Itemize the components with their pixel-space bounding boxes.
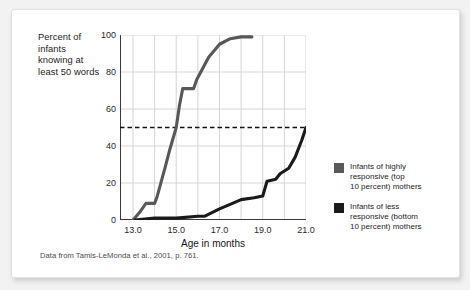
legend-item-less-responsive: Infants of less responsive (bottom 10 pe… bbox=[334, 202, 454, 233]
series-line-less-responsive bbox=[135, 128, 306, 221]
source-caption: Data from Tamis-LeMonda et al., 2001, p.… bbox=[40, 251, 199, 260]
legend-swatch-highly-responsive bbox=[334, 163, 344, 173]
y-tick-label: 40 bbox=[106, 141, 116, 151]
y-tick-label: 80 bbox=[106, 67, 116, 77]
legend: Infants of highly responsive (top 10 per… bbox=[334, 162, 454, 241]
plot-svg bbox=[120, 35, 306, 220]
legend-label-line-3: 10 percent) mothers bbox=[350, 182, 422, 192]
legend-label-line-2: responsive (bottom bbox=[350, 212, 422, 222]
x-axis-title: Age in months bbox=[181, 238, 245, 249]
figure-card: Percent of infants knowing at least 50 w… bbox=[11, 9, 460, 278]
legend-item-highly-responsive: Infants of highly responsive (top 10 per… bbox=[334, 162, 454, 193]
y-tick-label: 0 bbox=[111, 215, 116, 225]
figure-root: Percent of infants knowing at least 50 w… bbox=[0, 0, 470, 290]
x-tick-label: 19.0 bbox=[254, 225, 272, 235]
legend-label-line-1: Infants of highly bbox=[350, 162, 422, 172]
legend-label-less-responsive: Infants of less responsive (bottom 10 pe… bbox=[350, 202, 422, 233]
y-tick-label: 100 bbox=[101, 30, 116, 40]
series-line-highly-responsive bbox=[133, 37, 252, 220]
legend-label-line-1: Infants of less bbox=[350, 202, 422, 212]
y-axis-title-line-2: infants bbox=[38, 43, 124, 55]
x-tick-label: 17.0 bbox=[211, 225, 229, 235]
x-tick-label: 21.0 bbox=[297, 225, 315, 235]
y-tick-label: 60 bbox=[106, 104, 116, 114]
legend-label-line-3: 10 percent) mothers bbox=[350, 222, 422, 232]
legend-swatch-less-responsive bbox=[334, 203, 344, 213]
x-tick-label: 15.0 bbox=[167, 225, 185, 235]
x-tick-label: 13.0 bbox=[124, 225, 142, 235]
legend-label-line-2: responsive (top bbox=[350, 172, 422, 182]
plot-area: 020406080100 13.015.017.019.021.0 Age in… bbox=[120, 35, 306, 220]
y-axis-title-line-3: knowing at bbox=[38, 54, 124, 66]
legend-label-highly-responsive: Infants of highly responsive (top 10 per… bbox=[350, 162, 422, 193]
y-tick-label: 20 bbox=[106, 178, 116, 188]
